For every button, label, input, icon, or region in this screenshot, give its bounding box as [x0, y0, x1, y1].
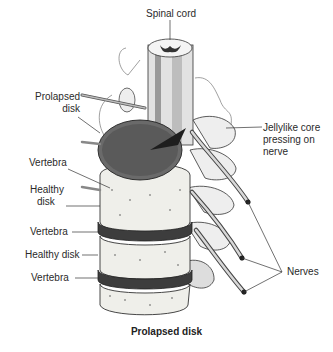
label-healthy-disk-1: Healthy disk	[30, 184, 64, 208]
label-healthy-disk-2: Healthy disk	[25, 249, 79, 261]
label-nerves: Nerves	[287, 266, 319, 278]
vertebra-stack	[98, 164, 192, 315]
vertebra-2	[100, 236, 190, 279]
label-vertebra-3: Vertebra	[31, 272, 69, 284]
membrane-outline	[119, 48, 140, 75]
label-vertebra-2: Vertebra	[30, 226, 68, 238]
label-prolapsed-disk: Prolapsed disk	[35, 91, 80, 115]
figure-caption: Prolapsed disk	[0, 326, 333, 337]
label-vertebra-1: Vertebra	[29, 157, 67, 169]
label-spinal-cord: Spinal cord	[146, 8, 196, 20]
spine-illustration	[0, 0, 333, 352]
label-jellylike-core: Jellylike core pressing on nerve	[263, 122, 320, 158]
